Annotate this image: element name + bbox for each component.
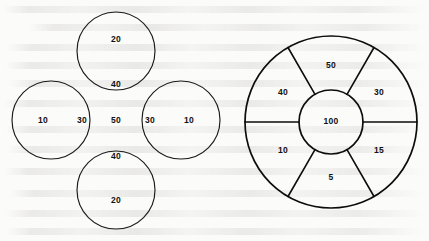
right-diagram-six-sector-wheel: 50 30 15 5 10 40 100 (245, 36, 417, 208)
label-sector-lower-left: 10 (278, 145, 288, 155)
label-sector-lower-right: 15 (374, 145, 384, 155)
label-sector-upper-left: 40 (278, 87, 288, 97)
label-top-outer: 20 (111, 34, 121, 44)
spoke-60deg (347, 48, 374, 95)
label-right-outer: 10 (184, 115, 194, 125)
label-left-outer: 10 (38, 115, 48, 125)
label-right-lens: 30 (145, 115, 155, 125)
circle-bottom (77, 151, 155, 229)
spoke-300deg (347, 150, 374, 197)
label-sector-bottom: 5 (329, 172, 334, 182)
label-center: 50 (111, 115, 121, 125)
label-left-lens: 30 (77, 115, 87, 125)
figure-canvas: 20 40 10 30 50 30 10 40 20 50 30 15 5 10 (0, 0, 429, 241)
label-sector-top: 50 (326, 60, 336, 70)
label-sector-upper-right: 30 (374, 87, 384, 97)
label-hub: 100 (324, 116, 339, 126)
label-top-lens: 40 (111, 79, 121, 89)
label-bottom-outer: 20 (111, 195, 121, 205)
figure-root: 20 40 10 30 50 30 10 40 20 50 30 15 5 10 (0, 0, 429, 241)
left-diagram-four-overlapping-circles: 20 40 10 30 50 30 10 40 20 (12, 12, 220, 229)
label-bottom-lens: 40 (111, 151, 121, 161)
spoke-120deg (288, 48, 315, 95)
spoke-240deg (288, 150, 315, 197)
